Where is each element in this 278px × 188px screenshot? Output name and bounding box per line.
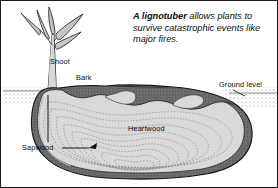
label-shoot: Shoot (50, 58, 70, 66)
label-sapwood: Sapwood (22, 144, 54, 152)
label-heartwood: Heartwood (128, 125, 165, 133)
figure-caption: A lignotuber allows plants to survive ca… (133, 11, 273, 46)
label-ground-level: Ground level (219, 81, 262, 89)
label-bark: Bark (76, 74, 92, 82)
caption-lead: A lignotuber (133, 11, 187, 21)
lignotuber-figure: A lignotuber allows plants to survive ca… (0, 0, 278, 188)
